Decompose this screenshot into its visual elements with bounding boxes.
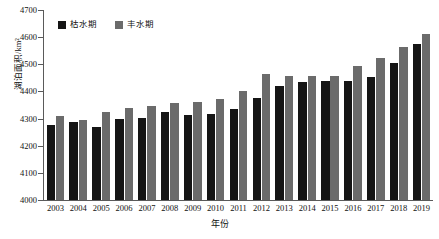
legend-item[interactable]: 枯水期 [58, 20, 97, 29]
bar-group [227, 10, 250, 200]
legend-item[interactable]: 丰水期 [115, 20, 154, 29]
bar-dry-season[interactable] [321, 81, 329, 200]
bar-wet-season[interactable] [239, 91, 247, 200]
bar-wet-season[interactable] [216, 99, 224, 200]
bar-group [67, 10, 90, 200]
bar-group [181, 10, 204, 200]
bar-group [44, 10, 67, 200]
bar-wet-season[interactable] [147, 106, 155, 200]
x-tick-label: 2018 [387, 203, 410, 213]
bar-group [410, 10, 433, 200]
y-tick-label: 4700 [20, 6, 37, 15]
bar-wet-season[interactable] [170, 103, 178, 200]
bar-wet-season[interactable] [56, 116, 64, 200]
bar-dry-season[interactable] [344, 81, 352, 200]
x-tick-label: 2007 [136, 203, 159, 213]
x-tick-label: 2019 [410, 203, 433, 213]
bar-wet-season[interactable] [79, 120, 87, 200]
x-tick-label: 2005 [90, 203, 113, 213]
bar-group [158, 10, 181, 200]
chart-legend: 枯水期丰水期 [58, 20, 154, 29]
x-tick-label: 2010 [204, 203, 227, 213]
legend-label: 枯水期 [70, 20, 97, 29]
x-tick-label: 2003 [44, 203, 67, 213]
bar-dry-season[interactable] [390, 63, 398, 200]
bar-group [250, 10, 273, 200]
bar-wet-season[interactable] [399, 47, 407, 200]
y-tick-mark [38, 119, 43, 120]
bar-group [136, 10, 159, 200]
bar-wet-season[interactable] [376, 58, 384, 200]
legend-label: 丰水期 [127, 20, 154, 29]
x-axis-line [43, 200, 433, 201]
x-tick-label: 2011 [227, 203, 250, 213]
legend-swatch-icon [115, 21, 123, 29]
bar-group [296, 10, 319, 200]
y-tick-mark [38, 200, 43, 201]
y-axis-tick-labels: 40004100420043004400450046004700 [0, 0, 40, 239]
bar-dry-season[interactable] [138, 118, 146, 201]
bar-chart: 湖泊面积/km² 4000410042004300440045004600470… [0, 0, 439, 239]
bar-wet-season[interactable] [330, 76, 338, 200]
y-tick-label: 4100 [20, 169, 37, 178]
bar-dry-season[interactable] [69, 122, 77, 200]
y-tick-mark [38, 37, 43, 38]
bar-wet-season[interactable] [422, 34, 430, 200]
bar-dry-season[interactable] [413, 44, 421, 200]
bar-wet-season[interactable] [285, 76, 293, 200]
x-tick-label: 2017 [364, 203, 387, 213]
bar-group [319, 10, 342, 200]
bar-wet-season[interactable] [102, 112, 110, 200]
y-tick-mark [38, 173, 43, 174]
bar-dry-season[interactable] [47, 125, 55, 200]
x-tick-label: 2013 [273, 203, 296, 213]
x-axis-title: 年份 [0, 217, 439, 230]
bar-group [204, 10, 227, 200]
bar-wet-season[interactable] [125, 108, 133, 200]
x-tick-label: 2016 [341, 203, 364, 213]
x-tick-label: 2004 [67, 203, 90, 213]
x-tick-label: 2009 [181, 203, 204, 213]
x-axis-tick-labels: 2003200420052006200720082009201020112012… [44, 203, 433, 217]
x-tick-label: 2014 [296, 203, 319, 213]
bar-dry-season[interactable] [275, 86, 283, 200]
bar-group [364, 10, 387, 200]
bar-dry-season[interactable] [298, 82, 306, 200]
x-tick-label: 2008 [158, 203, 181, 213]
bar-wet-season[interactable] [193, 102, 201, 200]
bar-group [273, 10, 296, 200]
y-tick-label: 4200 [20, 142, 37, 151]
bar-dry-season[interactable] [207, 114, 215, 200]
y-tick-label: 4600 [20, 33, 37, 42]
bar-dry-season[interactable] [184, 115, 192, 201]
x-tick-label: 2006 [113, 203, 136, 213]
bar-dry-season[interactable] [367, 77, 375, 200]
bar-dry-season[interactable] [253, 98, 261, 200]
y-tick-label: 4400 [20, 87, 37, 96]
x-tick-label: 2012 [250, 203, 273, 213]
bar-dry-season[interactable] [230, 109, 238, 200]
bar-group [341, 10, 364, 200]
y-tick-label: 4300 [20, 115, 37, 124]
y-tick-label: 4500 [20, 60, 37, 69]
bar-wet-season[interactable] [262, 74, 270, 200]
y-tick-mark [38, 146, 43, 147]
x-tick-label: 2015 [319, 203, 342, 213]
bar-wet-season[interactable] [308, 76, 316, 200]
legend-swatch-icon [58, 21, 66, 29]
bar-group [113, 10, 136, 200]
y-tick-mark [38, 91, 43, 92]
bar-dry-season[interactable] [115, 119, 123, 200]
bar-dry-season[interactable] [161, 112, 169, 200]
bar-group [387, 10, 410, 200]
y-tick-label: 4000 [20, 196, 37, 205]
bar-dry-season[interactable] [92, 127, 100, 200]
bar-wet-season[interactable] [353, 66, 361, 200]
y-tick-mark [38, 64, 43, 65]
plot-area [44, 10, 433, 200]
bar-group [90, 10, 113, 200]
y-tick-mark [38, 10, 43, 11]
